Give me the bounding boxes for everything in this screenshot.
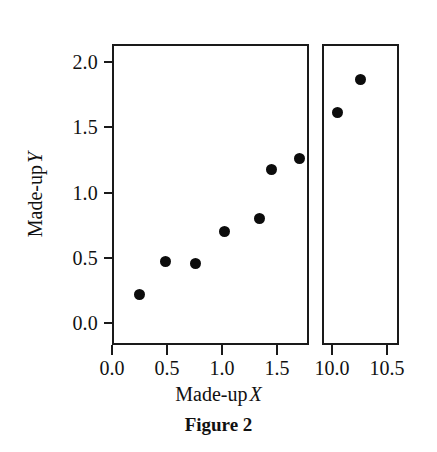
y-axis-tick-label: 1.5	[72, 117, 98, 137]
data-point	[355, 74, 366, 85]
y-axis-tick-label: 1.0	[72, 183, 98, 203]
plot-panel-left	[112, 44, 309, 345]
x-axis-tick-mark	[331, 345, 333, 355]
data-points-left	[114, 46, 307, 343]
data-point	[254, 213, 265, 224]
x-axis-tick-mark	[111, 345, 113, 355]
data-point	[219, 226, 230, 237]
y-axis-title-text: Made-up	[24, 165, 46, 237]
figure-2-scatter-plot: 2.01.51.00.50.0 Made-upY 0.00.51.01.510.…	[0, 0, 437, 452]
y-axis-tick-label: 0.0	[72, 313, 98, 333]
x-axis-tick-mark	[386, 345, 388, 355]
x-axis-title-symbol: X	[247, 383, 261, 405]
data-points-right	[324, 46, 397, 343]
data-point	[134, 289, 145, 300]
data-point	[332, 107, 343, 118]
figure-caption: Figure 2	[0, 414, 437, 436]
x-axis-tick-mark	[221, 345, 223, 355]
x-axis-tick-mark	[166, 345, 168, 355]
x-axis-tick-label: 10.5	[347, 357, 427, 379]
y-axis-tick-label: 0.5	[72, 248, 98, 268]
data-point	[294, 153, 305, 164]
x-axis-title: Made-upX	[0, 382, 437, 406]
y-axis-title: Made-upY	[18, 44, 52, 345]
y-axis-tick-label: 2.0	[72, 52, 98, 72]
data-point	[266, 164, 277, 175]
x-axis-title-text: Made-up	[175, 383, 247, 405]
data-point	[190, 258, 201, 269]
x-axis-tick-mark	[276, 345, 278, 355]
y-axis-title-symbol: Y	[24, 152, 46, 165]
plot-panel-right	[322, 44, 399, 345]
data-point	[160, 256, 171, 267]
